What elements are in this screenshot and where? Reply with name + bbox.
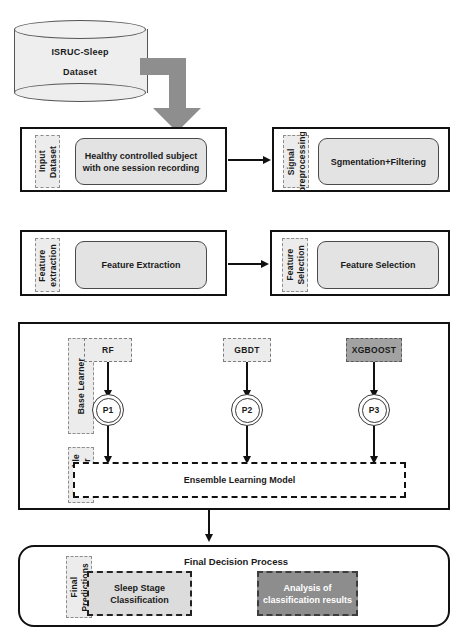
arrow-extraction-to-selection-line — [228, 263, 262, 265]
side-label-base-learner-text: Base Learner — [76, 358, 87, 414]
prediction-circle-p1-label: P1 — [103, 405, 113, 415]
model-box-rf-text: RF — [102, 345, 114, 355]
ensemble-learning-model-text: Ensemble Learning Model — [184, 475, 296, 485]
process-healthy-subject: Healthy controlled subject with one sess… — [75, 138, 207, 185]
side-label-signal-preprocessing: Signal preprocessing — [283, 135, 309, 188]
output-analysis-of-results: Analysis of classification results — [257, 571, 358, 616]
dataset-cylinder: ISRUC-Sleep Dataset — [14, 20, 146, 102]
model-box-gbdt-text: GBDT — [234, 345, 259, 355]
arrow-input-to-preprocessing-line — [228, 159, 264, 161]
panel-feature-extraction: Feature extraction Feature Extraction — [20, 230, 227, 296]
panel-input-dataset: Input Dataset Healthy controlled subject… — [20, 127, 227, 192]
model-box-rf: RF — [84, 338, 132, 362]
output-sleep-stage-classification: Sleep Stage Classification — [87, 571, 192, 616]
cylinder-top — [14, 20, 146, 39]
output-sleep-stage-classification-text: Sleep Stage Classification — [110, 582, 169, 606]
process-feature-selection-text: Feature Selection — [340, 259, 415, 271]
arrow-gbdt-to-p2-line — [246, 362, 248, 392]
model-box-xgboost: XGBOOST — [346, 338, 402, 362]
process-feature-selection: Feature Selection — [317, 241, 439, 289]
side-label-feature-selection-text: Feature Selection — [285, 245, 306, 285]
prediction-circle-p2-label: P2 — [242, 405, 252, 415]
cylinder-bottom — [14, 83, 146, 102]
prediction-circle-p3: P3 — [358, 394, 390, 426]
arrow-p3-to-ensemble-line — [373, 426, 375, 458]
dataset-label: ISRUC-Sleep Dataset — [14, 42, 146, 82]
side-label-input-dataset: Input Dataset — [35, 135, 60, 188]
dataset-arrow-vertical — [169, 58, 186, 114]
panel-signal-preprocessing: Signal preprocessing Sgmentation+Filteri… — [272, 127, 450, 192]
side-label-feature-extraction-text: Feature extraction — [37, 244, 58, 287]
process-feature-extraction-text: Feature Extraction — [101, 259, 180, 271]
output-analysis-of-results-text: Analysis of classification results — [263, 582, 352, 606]
process-segmentation-filtering-text: Sgmentation+Filtering — [331, 156, 426, 168]
panel-feature-selection: Feature Selection Feature Selection — [270, 230, 450, 296]
side-label-feature-selection: Feature Selection — [282, 238, 308, 292]
ensemble-learning-model-box: Ensemble Learning Model — [73, 462, 406, 498]
process-segmentation-filtering: Sgmentation+Filtering — [318, 138, 439, 185]
arrow-rf-to-p1-line — [107, 362, 109, 392]
panel-final-decision: Final Decision Process Final Predictions… — [18, 545, 450, 627]
process-healthy-subject-text: Healthy controlled subject with one sess… — [83, 150, 200, 174]
arrow-extraction-to-selection-head — [261, 260, 269, 268]
arrow-p2-to-ensemble-line — [246, 426, 248, 458]
panel-learner: Base Learner RF P1 GBDT P2 XGBOOST — [18, 322, 450, 510]
arrow-input-to-preprocessing-head — [263, 156, 271, 164]
diagram-canvas: ISRUC-Sleep Dataset Input Dataset Health… — [0, 0, 465, 644]
model-box-xgboost-text: XGBOOST — [352, 345, 397, 355]
side-label-feature-extraction: Feature extraction — [35, 238, 60, 292]
dataset-name-line1: ISRUC-Sleep — [14, 42, 146, 62]
prediction-circle-p1: P1 — [92, 394, 124, 426]
arrow-p1-to-ensemble-line — [107, 426, 109, 458]
side-label-signal-preprocessing-text: Signal preprocessing — [286, 131, 307, 192]
prediction-circle-p3-label: P3 — [369, 405, 379, 415]
arrow-learner-to-final-head — [205, 534, 213, 542]
arrow-xgboost-to-p3-line — [373, 362, 375, 392]
dataset-name-line2: Dataset — [14, 62, 146, 82]
model-box-gbdt: GBDT — [223, 338, 271, 362]
prediction-circle-p2: P2 — [231, 394, 263, 426]
side-label-input-dataset-text: Input Dataset — [37, 136, 58, 187]
process-feature-extraction: Feature Extraction — [75, 241, 207, 289]
